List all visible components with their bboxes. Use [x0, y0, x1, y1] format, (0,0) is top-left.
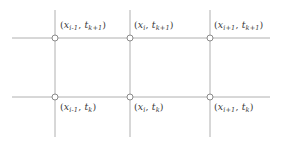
close-paren: )	[170, 19, 174, 30]
close-paren: )	[160, 101, 164, 112]
x-subscript: i-1	[69, 24, 78, 32]
x-subscript: i	[143, 24, 145, 32]
close-paren: )	[260, 19, 264, 30]
finite-difference-grid-stencil: (xi-1, tk+1) (xi, tk+1) (xi+1, tk+1) (xi…	[0, 0, 282, 149]
t-subscript: k+1	[88, 24, 102, 32]
node-label-i-plus-1-k: (xi+1, tk)	[214, 101, 254, 112]
grid-nodes	[52, 35, 213, 100]
close-paren: )	[102, 19, 106, 30]
t-subscript: k	[246, 106, 250, 114]
x-subscript: i+1	[223, 106, 235, 114]
node-i-k	[127, 94, 133, 100]
t-subscript: k+1	[156, 24, 170, 32]
node-label-i-k: (xi, tk)	[134, 101, 164, 112]
t-subscript: k+1	[246, 24, 260, 32]
x-subscript: i+1	[223, 24, 235, 32]
close-paren: )	[250, 101, 254, 112]
close-paren: )	[92, 101, 96, 112]
node-i-plus-1-k	[207, 94, 213, 100]
node-label-i-k-plus-1: (xi, tk+1)	[134, 19, 174, 30]
node-i-plus-1-k-plus-1	[207, 35, 213, 41]
x-subscript: i	[143, 106, 145, 114]
t-subscript: k	[88, 106, 92, 114]
horizontal-gridlines	[12, 38, 270, 97]
node-label-i-plus-1-k-plus-1: (xi+1, tk+1)	[214, 19, 263, 30]
t-subscript: k	[156, 106, 160, 114]
x-subscript: i-1	[69, 106, 78, 114]
node-label-i-minus-1-k-plus-1: (xi-1, tk+1)	[60, 19, 106, 30]
node-i-minus-1-k	[52, 94, 58, 100]
node-i-k-plus-1	[127, 35, 133, 41]
node-i-minus-1-k-plus-1	[52, 35, 58, 41]
node-label-i-minus-1-k: (xi-1, tk)	[60, 101, 96, 112]
